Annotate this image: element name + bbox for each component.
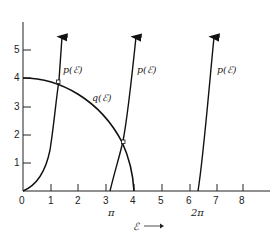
x-tick-4: 4 [130, 195, 136, 206]
intersection-point-2 [122, 140, 126, 144]
x-axis-label: ℰ [133, 221, 140, 232]
p-label-1: p(ℰ) [63, 64, 83, 75]
q-label: q(ℰ) [92, 92, 112, 103]
y-tick-1: 1 [14, 157, 20, 168]
q-curve [23, 78, 134, 191]
x-tick-1: 1 [48, 195, 54, 206]
p-label-2: p(ℰ) [137, 64, 157, 75]
x-tick-2: 2 [75, 195, 81, 206]
x-tick-7: 7 [213, 195, 219, 206]
x-ticks [51, 184, 243, 191]
x-tick-5: 5 [158, 195, 164, 206]
p-curve-2 [110, 37, 136, 191]
p-label-3: p(ℰ) [217, 64, 237, 75]
y-tick-3: 3 [14, 101, 20, 112]
x-tick-6: 6 [186, 195, 192, 206]
two-pi-label: 2π [190, 207, 204, 218]
arrow-head-icon [160, 224, 164, 229]
x-tick-3: 3 [103, 195, 109, 206]
pi-label: π [107, 207, 115, 218]
p-curve-1 [23, 37, 62, 191]
y-tick-4: 4 [14, 72, 20, 83]
y-tick-2: 2 [14, 129, 20, 140]
x-tick-8: 8 [239, 195, 245, 206]
intersection-point-1 [57, 80, 61, 84]
x-tick-0: 0 [19, 195, 25, 206]
p-curve-3 [198, 37, 214, 191]
dispersion-diagram: 1 2 3 4 5 0 1 2 3 4 5 6 7 8 π 2π ℰ p(ℰ) … [0, 0, 280, 235]
y-tick-5: 5 [14, 44, 20, 55]
y-ticks [23, 50, 31, 163]
